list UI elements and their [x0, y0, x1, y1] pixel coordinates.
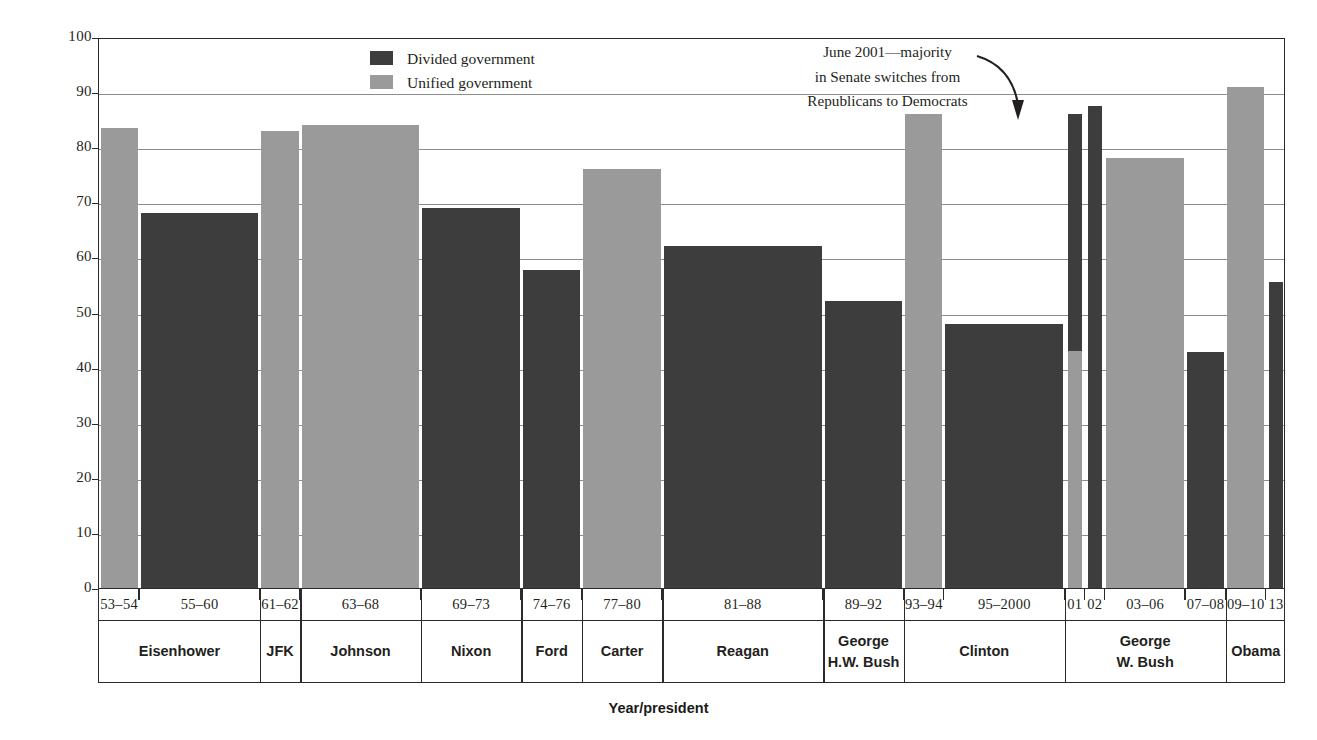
x-president-label-line-2: H.W. Bush — [828, 652, 900, 673]
x-period-label: 81–88 — [662, 589, 823, 620]
x-president-label-line-2: W. Bush — [1117, 652, 1174, 673]
plot-area — [98, 38, 1285, 589]
bar — [1088, 106, 1102, 588]
x-president-label-line-1: George — [1120, 631, 1171, 652]
y-tick-label: 10 — [46, 524, 92, 541]
x-president-cell: Clinton — [904, 621, 1065, 682]
x-group-separator — [904, 589, 905, 620]
x-period-label: 13 — [1266, 589, 1286, 620]
x-period-label: 09–10 — [1226, 589, 1266, 620]
x-group-separator — [823, 621, 824, 682]
x-period-label: 69–73 — [421, 589, 522, 620]
bar — [302, 125, 420, 588]
bar — [422, 208, 520, 588]
legend-swatch-divided — [370, 51, 393, 65]
x-president-cell: Johnson — [300, 621, 421, 682]
x-group-separator — [662, 589, 663, 620]
bar — [101, 128, 138, 588]
x-president-cell: Obama — [1226, 621, 1286, 682]
bar — [1269, 282, 1283, 588]
x-group-separator — [521, 589, 522, 620]
x-president-label-line-1: Ford — [536, 641, 568, 662]
x-period-label: 01 — [1065, 589, 1085, 620]
x-group-separator — [823, 589, 824, 620]
bar — [664, 246, 822, 588]
x-period-label: 03–06 — [1105, 589, 1185, 620]
x-group-separator — [904, 621, 905, 682]
x-period-label: 53–54 — [99, 589, 139, 620]
x-group-separator — [582, 589, 583, 620]
y-axis-ticks: 0102030405060708090100 — [34, 0, 92, 740]
chart-root: Percentage of presidents’ bills passed 0… — [0, 0, 1317, 740]
x-president-label-line-1: Obama — [1231, 641, 1280, 662]
x-president-cell: Nixon — [421, 621, 522, 682]
x-period-label: 55–60 — [139, 589, 260, 620]
x-president-label-line-1: Carter — [601, 641, 644, 662]
legend-item-divided: Divided government — [370, 46, 535, 70]
x-group-separator — [662, 621, 663, 682]
legend: Divided governmentUnified government — [370, 46, 535, 94]
bar — [583, 169, 660, 588]
bar-segment — [1068, 114, 1082, 351]
x-president-label-line-1: Johnson — [330, 641, 390, 662]
x-president-label-line-1: JFK — [266, 641, 293, 662]
x-president-label-line-1: Reagan — [717, 641, 769, 662]
annotation-arrow-icon — [975, 52, 1035, 124]
x-group-separator — [300, 589, 301, 620]
x-axis-title: Year/president — [0, 700, 1317, 716]
x-president-label-line-1: Eisenhower — [139, 641, 220, 662]
x-period-label: 95–2000 — [944, 589, 1065, 620]
x-president-label-line-1: George — [838, 631, 889, 652]
x-group-separator — [521, 621, 522, 682]
x-group-separator — [421, 621, 422, 682]
annotation-june-2001: June 2001—majorityin Senate switches fro… — [770, 40, 1005, 114]
y-tick-label: 70 — [46, 193, 92, 210]
x-group-separator — [421, 589, 422, 620]
annotation-line-2: in Senate switches from — [770, 65, 1005, 90]
bar-segment — [1068, 351, 1082, 588]
legend-item-unified: Unified government — [370, 70, 535, 94]
x-period-label: 89–92 — [823, 589, 903, 620]
x-president-label-line-1: Clinton — [959, 641, 1009, 662]
x-president-cell: GeorgeW. Bush — [1065, 621, 1226, 682]
y-tick-label: 90 — [46, 83, 92, 100]
bar — [825, 301, 902, 588]
legend-label-divided: Divided government — [407, 48, 535, 69]
bar — [1227, 87, 1264, 588]
y-tick-label: 80 — [46, 138, 92, 155]
x-period-label: 77–80 — [582, 589, 662, 620]
y-tick-label: 20 — [46, 469, 92, 486]
x-president-cell: Reagan — [662, 621, 823, 682]
bar — [523, 270, 580, 588]
bar — [1068, 114, 1082, 588]
x-president-cell: Eisenhower — [99, 621, 260, 682]
x-group-separator — [582, 621, 583, 682]
bar — [905, 114, 942, 588]
y-tick-label: 40 — [46, 359, 92, 376]
x-group-separator — [300, 621, 301, 682]
y-tick-label: 0 — [46, 579, 92, 596]
y-tick-label: 50 — [46, 304, 92, 321]
x-group-separator — [1065, 621, 1066, 682]
legend-swatch-unified — [370, 75, 393, 89]
x-group-separator — [1226, 589, 1227, 620]
x-group-separator — [260, 621, 261, 682]
x-group-separator — [260, 589, 261, 620]
x-president-cell: Ford — [521, 621, 581, 682]
x-group-separator — [1226, 621, 1227, 682]
x-president-label-line-1: Nixon — [451, 641, 491, 662]
x-axis-period-row: 53–5455–6061–6263–6869–7374–7677–8081–88… — [98, 589, 1285, 621]
bar — [1106, 158, 1183, 588]
x-axis-president-row: EisenhowerJFKJohnsonNixonFordCarterReaga… — [98, 621, 1285, 683]
y-tick-label: 60 — [46, 248, 92, 265]
bar — [141, 213, 259, 588]
x-period-label: 02 — [1085, 589, 1105, 620]
bar — [261, 131, 298, 588]
bar — [1187, 352, 1224, 588]
annotation-line-3: Republicans to Democrats — [770, 89, 1005, 114]
x-president-cell: GeorgeH.W. Bush — [823, 621, 903, 682]
bar — [945, 324, 1063, 588]
x-group-separator — [1065, 589, 1066, 620]
y-tick-label: 100 — [46, 28, 92, 45]
y-tick-label: 30 — [46, 414, 92, 431]
